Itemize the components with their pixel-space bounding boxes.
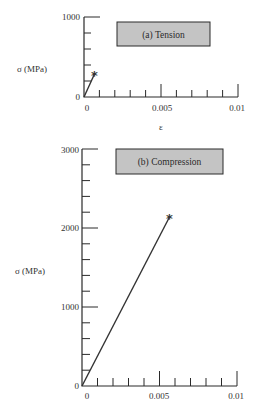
- compression-xlabel-0005: 0.005: [149, 391, 170, 401]
- compression-failure-marker: *: [166, 211, 173, 226]
- compression-ylabel-0: 0: [75, 381, 80, 391]
- tension-ylabel-0: 0: [76, 92, 81, 102]
- compression-chart: * 3000 2000 1000 0 0 0.005 0.01 σ (MPa) …: [15, 145, 244, 401]
- compression-caption: (b) Compression: [138, 157, 202, 168]
- compression-curve: [82, 217, 170, 386]
- tension-ylabel-1000: 1000: [62, 12, 81, 22]
- tension-chart: * 1000 0 0 0.005 0.01 σ (MPa) ε (a) Tens…: [17, 12, 245, 132]
- tension-xlabel-001: 0.01: [229, 103, 245, 113]
- compression-ylabel-2000: 2000: [61, 223, 80, 233]
- strain-axis-title: ε: [159, 122, 163, 132]
- tension-caption: (a) Tension: [142, 30, 185, 41]
- compression-ylabel-1000: 1000: [61, 302, 80, 312]
- tension-y-axis-title: σ (MPa): [17, 64, 47, 74]
- tension-failure-marker: *: [91, 68, 98, 83]
- compression-xlabel-0: 0: [85, 391, 90, 401]
- tension-xlabel-0005: 0.005: [152, 103, 173, 113]
- compression-xlabel-001: 0.01: [228, 391, 244, 401]
- figure: * 1000 0 0 0.005 0.01 σ (MPa) ε (a) Tens…: [0, 0, 253, 415]
- compression-ylabel-3000: 3000: [61, 145, 80, 155]
- compression-axes: [82, 149, 237, 386]
- tension-xlabel-0: 0: [85, 103, 90, 113]
- compression-y-axis-title: σ (MPa): [15, 266, 45, 276]
